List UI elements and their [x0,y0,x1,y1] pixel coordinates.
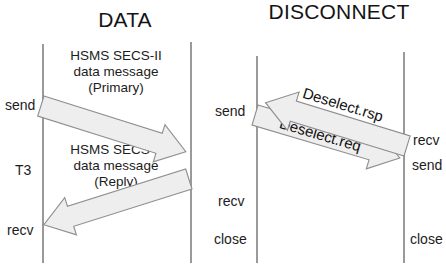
arrow-layer: Deselect.req Deselect.rsp [0,0,446,275]
data-primary-arrow [35,87,192,170]
diagram-canvas: DATA DISCONNECT send T3 recv HSMS SECS-I… [0,0,446,275]
data-reply-arrow [38,160,195,243]
disconnect-deselect-rsp-arrow: Deselect.rsp [260,74,416,165]
